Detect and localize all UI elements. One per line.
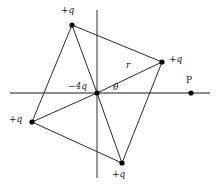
figure-canvas: −4q +q +q +q +q P r θ [0,0,217,189]
charge-points [29,22,193,165]
segment-bottom-to-origin [97,93,122,163]
radius-label-r: r [126,61,130,70]
charge-label-bottom: +q [112,170,125,179]
field-point-P [188,90,193,95]
charge-point-bottom [119,160,124,165]
charge-label-center: −4q [68,82,87,91]
field-point-label-P: P [186,76,192,85]
segment-right-to-bottom [122,62,162,163]
charge-label-top: +q [61,6,74,15]
charge-point-top [69,22,74,27]
angle-label-theta: θ [113,83,118,92]
charge-label-left: +q [9,115,22,124]
charge-configuration-diagram [0,0,217,189]
charge-label-right: +q [169,55,182,64]
segment-top-to-left [32,25,72,122]
segment-top-to-right [72,25,162,62]
charge-point-left [29,119,34,124]
segment-bottom-to-left [32,122,122,163]
charge-point-right [159,59,164,64]
charge-point-center [94,90,99,95]
